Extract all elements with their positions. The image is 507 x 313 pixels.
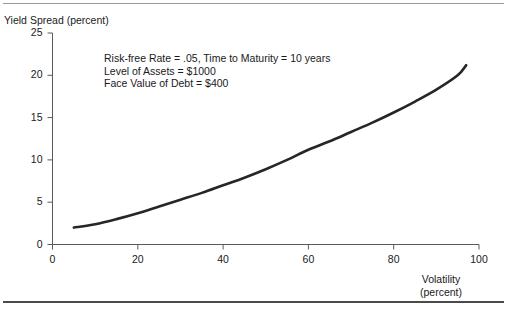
yield-spread-curve [74, 65, 466, 227]
x-tick-label: 0 [33, 254, 73, 265]
axis-lines [53, 33, 480, 245]
y-tick-label: 5 [9, 196, 43, 207]
x-tick-label: 80 [374, 254, 414, 265]
y-tick-label: 25 [9, 27, 43, 38]
y-tick-label: 15 [9, 112, 43, 123]
x-axis-ticks [53, 245, 480, 250]
x-tick-label: 60 [288, 254, 328, 265]
y-tick-label: 20 [9, 69, 43, 80]
y-tick-label: 10 [9, 154, 43, 165]
x-tick-label: 40 [203, 254, 243, 265]
x-tick-label: 100 [459, 254, 499, 265]
chart-figure: Yield Spread (percent) Volatility (perce… [0, 0, 507, 313]
plot-area [0, 0, 507, 313]
y-axis-ticks [48, 33, 53, 245]
x-tick-label: 20 [118, 254, 158, 265]
y-tick-label: 0 [9, 239, 43, 250]
